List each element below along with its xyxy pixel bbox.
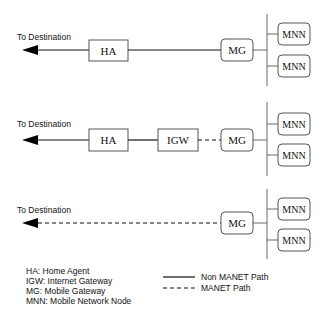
to-destination-label: To Destination [17,205,71,215]
mnn-label: MNN [282,204,305,215]
mg-label: MG [228,217,246,229]
arrow-left-icon [22,45,38,55]
mnn-label: MNN [282,150,305,161]
line-style-legend: Non MANET Path MANET Path [163,272,269,293]
legend-ha: HA: Home Agent [26,266,90,276]
legend-manet-path: MANET Path [201,283,251,293]
abbreviation-legend: HA: Home Agent IGW: Internet Gateway MG:… [26,266,132,306]
legend-mnn: MNN: Mobile Network Node [26,296,132,306]
arrow-left-icon [22,218,38,228]
mnn-label: MNN [282,29,305,40]
igw-label: IGW [167,134,190,146]
mg-label: MG [228,134,246,146]
legend-igw: IGW: Internet Gateway [26,276,113,286]
arrow-left-icon [22,135,38,145]
to-destination-label: To Destination [17,119,71,129]
row-1: To Destination HA MG MNN MNN [17,14,310,86]
row-3: To Destination MG MNN MNN [17,189,310,259]
legend-mg: MG: Mobile Gateway [26,286,106,296]
legend-non-manet-path: Non MANET Path [201,272,269,282]
to-destination-label: To Destination [17,32,71,42]
mnn-label: MNN [282,235,305,246]
network-diagram: To Destination HA MG MNN MNN To Destinat… [0,0,328,324]
row-2: To Destination HA IGW MG MNN MNN [17,102,310,176]
ha-label: HA [101,45,117,57]
mnn-label: MNN [282,61,305,72]
ha-label: HA [101,134,117,146]
mnn-label: MNN [282,119,305,130]
mg-label: MG [228,44,246,56]
